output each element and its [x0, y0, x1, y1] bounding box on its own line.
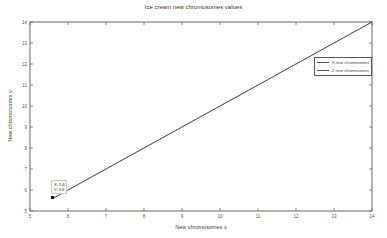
svg-text:5: 5 [29, 214, 32, 219]
svg-text:9: 9 [181, 214, 184, 219]
data-lines [53, 22, 372, 198]
data-tip-marker-icon [51, 196, 54, 199]
svg-text:7: 7 [24, 167, 27, 172]
data-tip[interactable]: X: 5.6 Y: 5.6 [51, 180, 67, 194]
svg-text:12: 12 [22, 62, 28, 67]
legend-item: X new chromosomes [315, 58, 371, 66]
x-axis-label: New chromosomes x [30, 224, 372, 230]
chart-title: Ice cream new chromosomes values [0, 4, 387, 10]
data-tip-y: Y: 5.6 [54, 187, 64, 192]
legend-line-icon [317, 62, 329, 63]
svg-text:11: 11 [256, 214, 261, 219]
svg-text:8: 8 [24, 146, 27, 151]
legend[interactable]: X new chromosomes Z new chromosomes [314, 57, 372, 76]
svg-text:13: 13 [22, 41, 28, 46]
svg-text:11: 11 [22, 83, 27, 88]
svg-text:14: 14 [22, 20, 28, 25]
legend-label: Z new chromosomes [332, 68, 369, 73]
svg-text:10: 10 [22, 104, 28, 109]
svg-text:6: 6 [67, 214, 70, 219]
svg-text:12: 12 [293, 214, 299, 219]
svg-text:6: 6 [24, 188, 27, 193]
svg-text:5: 5 [24, 209, 27, 214]
svg-text:8: 8 [143, 214, 146, 219]
svg-text:10: 10 [217, 214, 223, 219]
y-axis-label: New chromosomes y [7, 90, 13, 141]
svg-text:13: 13 [331, 214, 337, 219]
svg-text:14: 14 [369, 214, 375, 219]
legend-label: X new chromosomes [332, 60, 369, 65]
plot-canvas: 567891011121314567891011121314 [0, 0, 387, 238]
svg-text:7: 7 [105, 214, 108, 219]
legend-line-icon [317, 70, 329, 71]
legend-item: Z new chromosomes [315, 66, 371, 74]
svg-text:9: 9 [24, 125, 27, 130]
